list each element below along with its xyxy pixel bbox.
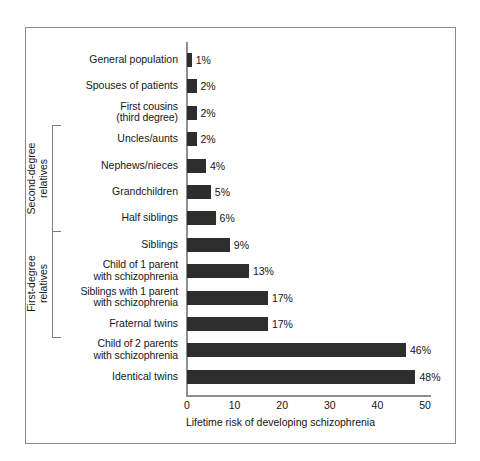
bar-row: Fraternal twins17% — [26, 312, 457, 336]
bar-value-label: 2% — [201, 106, 216, 120]
group-bracket-label: Second-degree relatives — [27, 125, 50, 232]
bar-row: Uncles/aunts2% — [26, 127, 457, 151]
bar-row: Child of 2 parents with schizophrenia46% — [26, 338, 457, 362]
bar-row: Spouses of patients2% — [26, 74, 457, 98]
bar-category-label: Child of 2 parents with schizophrenia — [30, 338, 178, 361]
bar — [187, 185, 211, 199]
bar-category-label: Identical twins — [30, 371, 178, 383]
bar-value-label: 9% — [234, 238, 249, 252]
bar-category-label: Spouses of patients — [30, 80, 178, 92]
bar — [187, 264, 249, 278]
bar-value-label: 2% — [201, 79, 216, 93]
bar — [187, 370, 415, 384]
bar-row: Half siblings6% — [26, 206, 457, 230]
bar-value-label: 17% — [272, 317, 293, 331]
x-tick-label: 0 — [184, 399, 190, 412]
bar — [187, 343, 406, 357]
bar-value-label: 4% — [210, 159, 225, 173]
x-axis-line — [186, 395, 431, 397]
bar-row: Identical twins48% — [26, 365, 457, 389]
bar-category-label: First cousins (third degree) — [30, 101, 178, 124]
bar — [187, 132, 197, 146]
bar-value-label: 6% — [220, 211, 235, 225]
x-tick-label: 20 — [276, 399, 288, 412]
bar-category-label: General population — [30, 54, 178, 66]
bar — [187, 53, 192, 67]
bar — [187, 291, 268, 305]
bar — [187, 106, 197, 120]
bar-row: Siblings9% — [26, 233, 457, 257]
x-axis-title-text: Lifetime risk of developing schizophreni… — [108, 416, 375, 428]
bar-value-label: 13% — [253, 264, 274, 278]
bar — [187, 317, 268, 331]
figure-panel: General population1%Spouses of patients2… — [25, 27, 456, 444]
x-tick-label: 30 — [324, 399, 336, 412]
bar — [187, 79, 197, 93]
group-bracket — [52, 231, 61, 338]
x-axis-title: Lifetime risk of developing schizophreni… — [26, 416, 457, 428]
bar-value-label: 5% — [215, 185, 230, 199]
bar-row: Nephews/nieces4% — [26, 154, 457, 178]
bar — [187, 159, 206, 173]
group-bracket — [52, 125, 61, 232]
bar — [187, 238, 230, 252]
bar-value-label: 46% — [410, 343, 431, 357]
bar-chart-plot: General population1%Spouses of patients2… — [26, 28, 457, 445]
x-tick-label: 50 — [419, 399, 431, 412]
bar-value-label: 2% — [201, 132, 216, 146]
x-tick-label: 10 — [229, 399, 241, 412]
bar-row: Child of 1 parent with schizophrenia13% — [26, 259, 457, 283]
x-tick-label: 40 — [372, 399, 384, 412]
bar-row: Grandchildren5% — [26, 180, 457, 204]
bar — [187, 211, 216, 225]
bar-value-label: 1% — [196, 53, 211, 67]
bar-row: Siblings with 1 parent with schizophreni… — [26, 286, 457, 310]
bar-value-label: 48% — [419, 370, 440, 384]
bar-row: General population1% — [26, 48, 457, 72]
bar-value-label: 17% — [272, 291, 293, 305]
bar-row: First cousins (third degree)2% — [26, 101, 457, 125]
group-bracket-label: First-degree relatives — [27, 230, 50, 337]
